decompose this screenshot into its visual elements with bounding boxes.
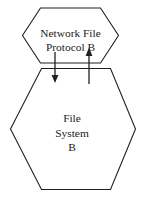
lower-node-label-line2: System — [55, 127, 89, 139]
diagram-canvas: Network File Protocol B File System B — [0, 0, 145, 199]
lower-node-label-line1: File — [63, 112, 81, 124]
layer-diagram: Network File Protocol B File System B — [0, 0, 145, 199]
lower-node-label-line3: B — [68, 141, 76, 153]
upper-node-label-line1: Network File — [40, 27, 100, 39]
